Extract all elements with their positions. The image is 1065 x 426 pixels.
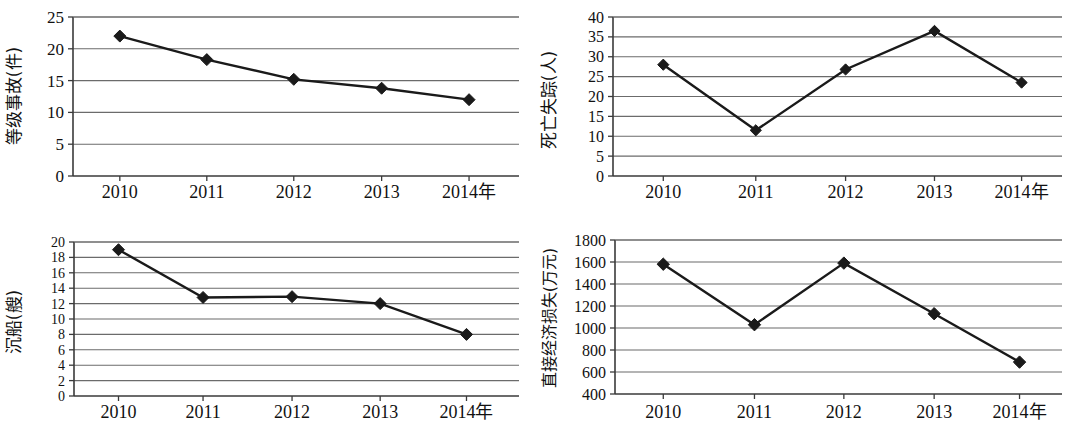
y-tick-label: 0 (56, 167, 65, 186)
chart-svg-sunken-vessels: 0246810121416182020102011201220132014年沉船… (0, 213, 533, 426)
x-axis-ticks: 20102011201220132014年 (102, 176, 496, 202)
y-axis-ticks: 40060080010001200140016001800 (574, 232, 615, 403)
y-tick-label: 14 (51, 281, 65, 296)
x-tick-label: 2010 (102, 182, 138, 202)
y-tick-label: 30 (588, 48, 604, 65)
data-point-marker (113, 244, 125, 256)
x-axis-ticks: 20102011201220132014年 (101, 396, 494, 422)
y-tick-label: 10 (51, 312, 65, 327)
gridlines (615, 240, 1062, 372)
x-tick-label: 2011 (737, 402, 772, 422)
chart-svg-grade-accidents: 051015202520102011201220132014年等级事故(件) (0, 0, 533, 213)
y-tick-label: 400 (582, 386, 606, 403)
y-tick-label: 800 (582, 342, 606, 359)
y-tick-label: 8 (58, 327, 65, 342)
y-tick-label: 40 (588, 9, 604, 26)
y-tick-label: 10 (47, 103, 64, 122)
chart-svg-direct-economic-loss: 4006008001000120014001600180020102011201… (533, 213, 1065, 426)
y-axis-ticks: 02468101214161820 (51, 235, 74, 404)
x-tick-label: 2013 (364, 182, 400, 202)
x-tick-label: 2012 (828, 182, 864, 202)
x-tick-label: 2012 (276, 182, 312, 202)
x-tick-label: 2011 (185, 402, 220, 422)
y-axis-ticks: 0510152025 (47, 8, 73, 186)
y-tick-label: 15 (588, 108, 604, 125)
y-tick-label: 4 (58, 358, 65, 373)
y-tick-label: 1000 (574, 320, 606, 337)
x-tick-label: 2011 (738, 182, 773, 202)
data-point-marker (114, 30, 126, 42)
y-axis-title: 直接经济损失(万元) (540, 248, 559, 388)
x-tick-label: 2013 (916, 402, 952, 422)
x-tick-label: 2010 (101, 402, 137, 422)
y-tick-label: 10 (588, 128, 604, 145)
x-tick-label: 2011 (189, 182, 224, 202)
y-tick-label: 25 (588, 68, 604, 85)
y-tick-label: 0 (596, 168, 604, 185)
x-axis-ticks: 20102011201220132014年 (645, 176, 1048, 202)
x-tick-label: 2012 (826, 402, 862, 422)
x-tick-label: 2014年 (439, 402, 493, 422)
y-tick-label: 1200 (574, 298, 606, 315)
data-point-marker (657, 258, 669, 270)
data-markers (113, 244, 473, 341)
y-tick-label: 5 (596, 148, 604, 165)
chart-panel-direct-economic-loss: 4006008001000120014001600180020102011201… (533, 213, 1065, 426)
x-tick-label: 2013 (362, 402, 398, 422)
chart-panel-deaths-missing: 051015202530354020102011201220132014年死亡失… (533, 0, 1065, 213)
data-point-marker (460, 328, 472, 340)
data-markers (658, 25, 1028, 136)
data-point-marker (1013, 356, 1025, 368)
y-tick-label: 20 (47, 40, 64, 59)
data-point-marker (1016, 77, 1027, 88)
y-tick-label: 5 (56, 135, 65, 154)
chart-figure-grid: 051015202520102011201220132014年等级事故(件) 0… (0, 0, 1065, 426)
chart-panel-grade-accidents: 051015202520102011201220132014年等级事故(件) (0, 0, 533, 213)
x-tick-label: 2010 (645, 182, 681, 202)
x-tick-label: 2014年 (442, 182, 496, 202)
data-point-marker (463, 94, 475, 106)
y-tick-label: 20 (51, 235, 65, 250)
y-tick-label: 18 (51, 250, 65, 265)
y-tick-label: 20 (588, 88, 604, 105)
data-point-marker (197, 291, 209, 303)
y-tick-label: 15 (47, 72, 64, 91)
data-line (120, 36, 469, 100)
y-tick-label: 12 (51, 297, 65, 312)
x-tick-label: 2014年 (995, 182, 1049, 202)
x-tick-label: 2014年 (993, 402, 1047, 422)
y-tick-label: 1600 (574, 254, 606, 271)
y-tick-label: 2 (58, 374, 65, 389)
x-tick-label: 2012 (274, 402, 310, 422)
x-tick-label: 2010 (645, 402, 681, 422)
data-line (663, 31, 1021, 130)
x-axis-ticks: 20102011201220132014年 (645, 394, 1046, 422)
data-point-marker (286, 291, 298, 303)
data-point-marker (201, 54, 213, 66)
y-tick-label: 35 (588, 28, 604, 45)
y-tick-label: 1800 (574, 232, 606, 249)
x-tick-label: 2013 (916, 182, 952, 202)
gridlines (613, 17, 1062, 156)
data-point-marker (928, 308, 940, 320)
chart-svg-deaths-missing: 051015202530354020102011201220132014年死亡失… (533, 0, 1065, 213)
chart-panel-sunken-vessels: 0246810121416182020102011201220132014年沉船… (0, 213, 533, 426)
y-axis-title: 死亡失踪(人) (539, 51, 559, 149)
y-tick-label: 16 (51, 266, 65, 281)
y-tick-label: 600 (582, 364, 606, 381)
y-tick-label: 1400 (574, 276, 606, 293)
data-point-marker (374, 298, 386, 310)
data-line (663, 263, 1019, 362)
data-point-marker (929, 25, 940, 36)
y-axis-title: 等级事故(件) (4, 47, 24, 145)
y-axis-ticks: 0510152025303540 (588, 9, 613, 185)
y-tick-label: 0 (58, 389, 65, 404)
data-point-marker (288, 73, 300, 85)
data-point-marker (376, 82, 388, 94)
y-tick-label: 25 (47, 8, 64, 27)
y-axis-title: 沉船(艘) (4, 290, 24, 354)
y-tick-label: 6 (58, 343, 65, 358)
data-markers (657, 257, 1026, 368)
